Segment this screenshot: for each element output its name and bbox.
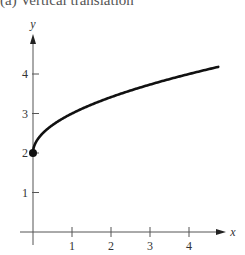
chart: 12341234xy <box>0 0 245 255</box>
x-tick-label: 3 <box>147 239 153 253</box>
axis-labels: 12341234xy <box>22 17 236 253</box>
y-axis-arrow-icon <box>30 34 36 44</box>
y-axis-label: y <box>29 17 36 31</box>
y-tick-label: 2 <box>22 146 28 160</box>
y-tick-label: 4 <box>22 67 28 81</box>
x-tick-label: 4 <box>186 239 192 253</box>
x-tick-label: 1 <box>69 239 75 253</box>
x-tick-label: 2 <box>108 239 114 253</box>
curve <box>29 67 218 157</box>
x-axis-label: x <box>229 225 236 239</box>
curve-line <box>33 67 218 153</box>
axes <box>20 34 226 245</box>
y-tick-label: 3 <box>22 107 28 121</box>
start-point-dot <box>29 149 37 157</box>
x-axis-arrow-icon <box>216 229 226 235</box>
y-tick-label: 1 <box>22 186 28 200</box>
